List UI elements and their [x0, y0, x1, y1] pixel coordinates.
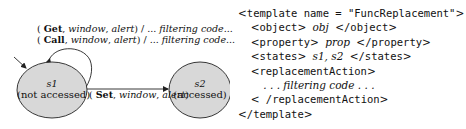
- code-line-template-close: </template>: [238, 107, 464, 121]
- code-line-states: <states> s1, s2 </states>: [238, 49, 464, 63]
- code-line-replacement-body: . . . filtering code . . .: [238, 78, 464, 92]
- code-line-object: <object> obj </object>: [238, 20, 464, 34]
- diagram-graphics: [0, 0, 230, 129]
- code-line-replacement-close: < /replacementAction>: [238, 92, 464, 106]
- self-loop-label-get: ( Get, window, alert) / ... filtering co…: [37, 24, 233, 34]
- transition-label-set: ( Set, window, alert): [89, 90, 189, 100]
- initial-transition-arrow: [14, 57, 26, 68]
- template-code-block: <template name = "FuncReplacement"> <obj…: [238, 6, 464, 121]
- code-line-template-open: <template name = "FuncReplacement">: [238, 6, 464, 20]
- state-s1-label: s1 (not accessed): [17, 78, 87, 101]
- code-line-replacement-open: <replacementAction>: [238, 64, 464, 78]
- state-machine-diagram: ( Get, window, alert) / ... filtering co…: [0, 0, 230, 129]
- code-line-property: <property> prop </property>: [238, 35, 464, 49]
- self-loop-label-call: ( Call, window, alert) / ... filtering c…: [37, 35, 235, 45]
